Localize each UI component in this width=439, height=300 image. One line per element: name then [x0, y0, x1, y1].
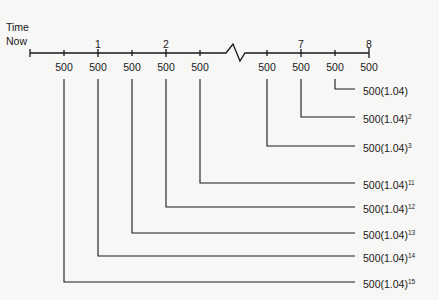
payment-label: 500 [360, 61, 378, 73]
axis-start-label-now: Now [6, 35, 27, 47]
payment-label: 500 [292, 61, 310, 73]
future-value-label: 500(1.04)11 [363, 177, 415, 191]
compounding-connector [301, 79, 355, 117]
payment-label: 500 [123, 61, 141, 73]
compounding-connector [200, 79, 355, 183]
future-value-label: 500(1.04)13 [363, 227, 415, 241]
period-label-2: 2 [163, 38, 169, 50]
payment-label: 500 [191, 61, 209, 73]
period-label-1: 1 [95, 38, 101, 50]
payment-label: 500 [55, 61, 73, 73]
payment-label: 500 [157, 61, 175, 73]
compounding-connector [166, 79, 355, 207]
payment-label: 500 [89, 61, 107, 73]
future-value-label: 500(1.04)3 [363, 140, 412, 154]
period-label-8: 8 [366, 38, 372, 50]
axis-start-label-time: Time [6, 21, 29, 33]
future-value-label: 500(1.04) [363, 83, 408, 97]
payment-label: 500 [258, 61, 276, 73]
future-value-label: 500(1.04)14 [363, 250, 415, 264]
future-value-label: 500(1.04)2 [363, 111, 412, 125]
compounding-connector [98, 79, 355, 256]
future-value-label: 500(1.04)12 [363, 201, 415, 215]
compounding-connector [64, 79, 355, 282]
compounding-connector [335, 79, 355, 89]
payment-label: 500 [326, 61, 344, 73]
future-value-label: 500(1.04)15 [363, 276, 415, 290]
period-label-7: 7 [298, 38, 304, 50]
